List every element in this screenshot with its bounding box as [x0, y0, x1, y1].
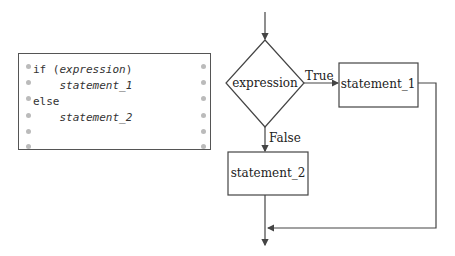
false-label: False — [269, 131, 301, 145]
true-label: True — [305, 69, 334, 83]
statement-1-label: statement_1 — [341, 77, 416, 91]
statement-2-label: statement_2 — [231, 166, 306, 180]
decision-label: expression — [232, 76, 298, 90]
flowchart: expression True statement_1 False statem… — [0, 0, 455, 256]
